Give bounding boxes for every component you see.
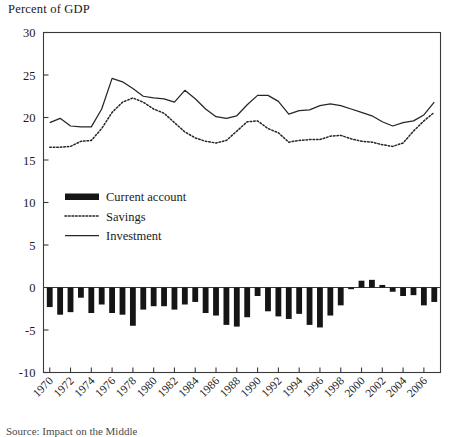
y-tick-label: 15 [23, 154, 36, 168]
legend-entry: Investment [65, 229, 162, 243]
current-account-bar [411, 288, 417, 296]
current-account-bar [379, 285, 385, 288]
savings-line [50, 98, 435, 147]
figure-caption: Source: Impact on the Middle [6, 425, 137, 437]
current-account-bar [307, 288, 313, 325]
current-account-bar [234, 288, 240, 327]
y-tick-label: -10 [19, 366, 36, 380]
legend-entry: Current account [65, 190, 187, 204]
current-account-bar [296, 288, 302, 314]
legend-label: Current account [106, 190, 187, 204]
current-account-bar [224, 288, 230, 325]
current-account-bar [255, 288, 261, 297]
legend-swatch-current-account [65, 194, 99, 201]
current-account-bar [78, 288, 84, 298]
x-tick-label: 1974 [72, 374, 97, 399]
x-tick-label: 1984 [176, 374, 201, 399]
y-tick-label: 20 [23, 111, 36, 125]
legend-label: Investment [106, 229, 162, 243]
current-account-bar [120, 288, 126, 315]
current-account-bar [203, 288, 209, 314]
current-account-bar [431, 288, 437, 302]
current-account-bar [265, 288, 271, 312]
x-tick-label: 2000 [342, 374, 367, 399]
x-tick-label: 2006 [405, 374, 430, 399]
current-account-bar [327, 288, 333, 316]
current-account-bar [275, 288, 281, 317]
legend-label: Savings [106, 210, 146, 224]
x-axis-tick-labels: 1970197219741976197819801982198419861988… [30, 374, 429, 399]
y-axis-tick-labels: 302520151050-5-10 [19, 26, 36, 380]
x-tick-label: 1980 [134, 374, 159, 399]
current-account-bar [151, 288, 157, 307]
y-tick-label: 30 [23, 26, 36, 40]
y-tick-label: -5 [25, 324, 35, 338]
x-tick-label: 2004 [384, 374, 409, 399]
current-account-bar [47, 288, 53, 308]
current-account-bar [130, 288, 136, 326]
legend-entry: Savings [65, 210, 146, 224]
x-tick-label: 1998 [321, 374, 346, 399]
current-account-bar [213, 288, 219, 316]
x-tick-label: 1978 [114, 374, 139, 399]
current-account-bar [317, 288, 323, 328]
current-account-bar [244, 288, 250, 318]
y-tick-label: 10 [23, 196, 36, 210]
x-tick-label: 1992 [259, 374, 284, 399]
plot-frame [44, 33, 441, 373]
current-account-bar [369, 280, 375, 288]
current-account-bar [286, 288, 292, 319]
current-account-bar [421, 288, 427, 306]
x-tick-label: 2002 [363, 374, 388, 399]
x-tick-label: 1990 [238, 374, 263, 399]
current-account-bar [161, 288, 167, 307]
current-account-bar [88, 288, 94, 314]
current-account-bar [182, 288, 188, 305]
x-tick-label: 1972 [51, 374, 76, 399]
x-tick-label: 1996 [301, 374, 326, 399]
current-account-bar [348, 288, 354, 290]
chart-legend: Current accountSavingsInvestment [65, 190, 187, 243]
x-tick-label: 1994 [280, 374, 305, 399]
current-account-bar [99, 288, 105, 305]
current-account-bar [400, 288, 406, 297]
current-account-bar [192, 288, 198, 302]
current-account-bar [359, 281, 365, 288]
y-axis-ticks [44, 33, 49, 373]
x-tick-label: 1976 [93, 374, 118, 399]
current-account-bar [109, 288, 115, 314]
y-tick-label: 5 [29, 239, 35, 253]
current-account-bar [57, 288, 63, 315]
current-account-bar [140, 288, 146, 310]
y-tick-label: 25 [23, 69, 36, 83]
y-tick-label: 0 [29, 281, 35, 295]
current-account-bar [390, 288, 396, 292]
current-account-bar [338, 288, 344, 306]
x-tick-label: 1988 [217, 374, 242, 399]
current-account-bar [172, 288, 178, 310]
x-tick-label: 1986 [197, 374, 222, 399]
x-axis-ticks [50, 368, 424, 373]
x-tick-label: 1982 [155, 374, 180, 399]
current-account-bar [68, 288, 74, 313]
